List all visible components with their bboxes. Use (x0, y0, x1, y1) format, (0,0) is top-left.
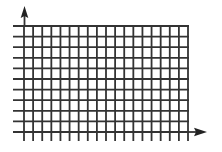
grid-graphic (0, 0, 222, 152)
horizontal-grid-lines (13, 26, 189, 132)
coordinate-grid-diagram (0, 0, 222, 152)
x-axis (189, 128, 207, 136)
vertical-grid-lines (24, 26, 188, 141)
y-axis (21, 6, 29, 26)
